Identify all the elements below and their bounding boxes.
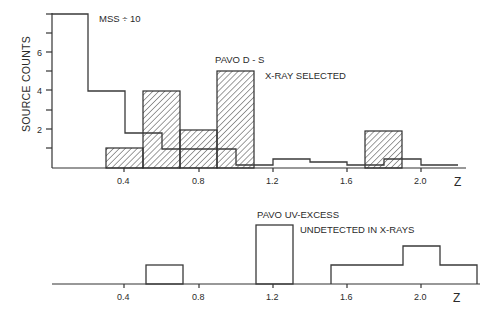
histogram-figure: 6 4 2 SOURCE COUNTS 0.4 0.8 1.2 1.6 2.0 …: [0, 0, 484, 319]
uv-excess-annotation: PAVO UV-EXCESS: [257, 209, 339, 220]
bottom-x-tick-label-1.6: 1.6: [340, 292, 353, 302]
top-x-axis-label: Z: [454, 175, 461, 189]
top-y-tick-label-6: 6: [37, 48, 42, 58]
uv-bin-1.1-1.3: [256, 225, 293, 284]
bottom-x-tick-label-0.4: 0.4: [117, 292, 130, 302]
xray-selected-series: [106, 71, 402, 168]
top-y-ticks: [46, 14, 52, 148]
bottom-x-tick-label-1.2: 1.2: [266, 292, 279, 302]
top-x-tick-label-1.2: 1.2: [266, 176, 279, 186]
mss-annotation: MSS ÷ 10: [99, 13, 141, 24]
bottom-panel: 0.4 0.8 1.2 1.6 2.0 Z PAVO UV-EXCESS UND…: [52, 209, 480, 305]
top-y-tick-label-4: 4: [37, 86, 42, 96]
bottom-x-axis-label: Z: [453, 291, 460, 305]
top-x-tick-label-0.8: 0.8: [192, 176, 205, 186]
top-x-tick-label-2.0: 2.0: [414, 176, 427, 186]
top-x-ticks: [124, 168, 421, 172]
bottom-x-tick-label-2.0: 2.0: [414, 292, 427, 302]
xray-bin-0.3-0.5: [106, 148, 143, 168]
top-panel: 6 4 2 SOURCE COUNTS 0.4 0.8 1.2 1.6 2.0 …: [20, 13, 466, 189]
uv-bins-1.5-2.3: [331, 246, 477, 284]
uv-bin-0.5-0.7: [146, 265, 183, 284]
top-y-tick-label-2: 2: [37, 125, 42, 135]
top-x-tick-label-0.4: 0.4: [117, 176, 130, 186]
pavo-ds-annotation: PAVO D - S: [215, 54, 264, 65]
bottom-x-tick-label-0.8: 0.8: [192, 292, 205, 302]
top-y-axis-label: SOURCE COUNTS: [20, 36, 32, 132]
xray-selected-annotation: X-RAY SELECTED: [265, 70, 346, 81]
xray-bin-0.5-0.7: [143, 91, 180, 168]
top-x-tick-label-1.6: 1.6: [340, 176, 353, 186]
undetected-annotation: UNDETECTED IN X-RAYS: [300, 224, 414, 235]
